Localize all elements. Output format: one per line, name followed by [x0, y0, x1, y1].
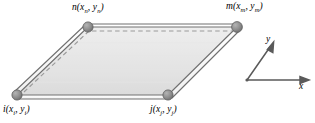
node-i [12, 90, 22, 100]
vertex-label-i-mid: , y [15, 104, 24, 114]
vertex-label-m: m(xm, ym) [226, 1, 263, 13]
vertex-label-m-close: ) [260, 1, 263, 11]
vertex-label-j-name: j(x [150, 104, 160, 114]
vertex-label-n-mid: , y [88, 2, 97, 12]
vertex-label-i-close: ) [26, 104, 29, 114]
vertex-label-i-name: i(x [3, 104, 13, 114]
vertex-label-j: j(xj, yj) [150, 104, 177, 116]
coordinate-axes [245, 42, 309, 83]
vertex-label-n-close: ) [101, 2, 104, 12]
vertex-label-n-name: n(x [72, 2, 84, 12]
vertex-label-m-mid: , y [245, 1, 254, 11]
vertex-label-m-name: m(x [226, 1, 241, 11]
geometry-figure: n(xn, yn) m(xm, ym) i(xi, yi) j(xj, yj) … [0, 0, 315, 123]
y-axis-line [247, 47, 270, 80]
vertex-label-n: n(xn, yn) [72, 2, 104, 14]
node-m [232, 22, 243, 33]
node-j [163, 90, 173, 100]
vertex-label-j-close: ) [173, 104, 176, 114]
vertex-label-j-mid: , y [162, 104, 171, 114]
axes-origin [245, 78, 248, 81]
vertex-label-i: i(xi, yi) [3, 104, 30, 116]
node-n [83, 22, 93, 32]
x-axis-label: x [299, 81, 303, 91]
y-axis-label: y [266, 34, 270, 44]
